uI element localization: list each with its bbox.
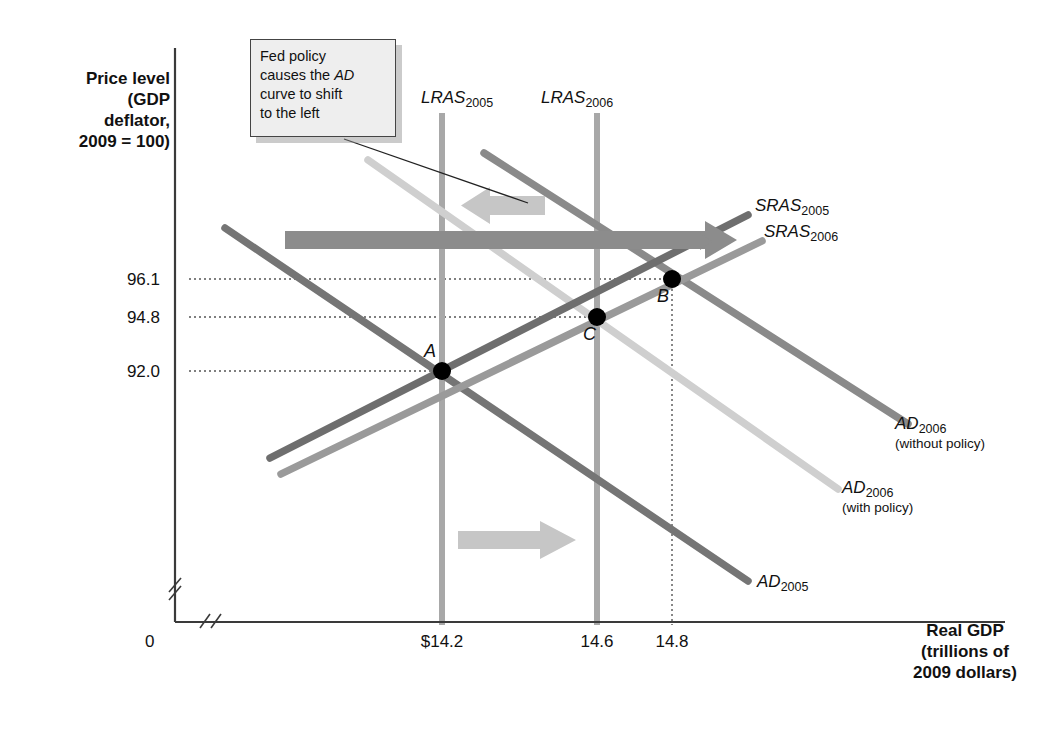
origin-label: 0 (145, 632, 154, 652)
label-ad-2006-without-policy: AD2006 (without policy) (895, 414, 985, 451)
label-sras-2006: SRAS2006 (764, 222, 838, 244)
label-sras-2006-sub: 2006 (810, 230, 838, 244)
x-tick-14-6: 14.6 (555, 632, 639, 652)
callout-box: Fed policy causes the AD curve to shift … (250, 39, 396, 137)
label-sras-2005-name: SRAS (755, 196, 801, 215)
label-sras-2005: SRAS2005 (755, 196, 829, 218)
callout-line-2: causes the AD (260, 66, 386, 85)
label-ad-2006-with-policy: AD2006 (with policy) (842, 478, 913, 515)
x-tick-14-8: 14.8 (630, 632, 714, 652)
label-ad-2005-sub: 2005 (781, 580, 809, 594)
y-tick-94-8: 94.8 (88, 308, 160, 328)
arrow-lras-shift-right (458, 521, 576, 559)
point-label-b: B (657, 286, 669, 307)
label-lras-2005-name: LRAS (421, 88, 465, 107)
callout-line-2-em: AD (334, 67, 354, 83)
curve-sras-2006 (281, 241, 762, 474)
label-lras-2005: LRAS2005 (421, 88, 493, 110)
point-label-c: C (583, 324, 596, 345)
point-a (433, 362, 451, 380)
label-ad-2006-with-note: (with policy) (842, 500, 913, 515)
y-tick-92-0: 92.0 (88, 362, 160, 382)
callout-pointer-line (344, 139, 528, 203)
label-ad-2005: AD2005 (757, 572, 808, 594)
y-tick-96-1: 96.1 (88, 270, 160, 290)
label-lras-2005-sub: 2005 (465, 96, 493, 110)
figure-canvas: Price level (GDP deflator, 2009 = 100) R… (0, 0, 1053, 729)
y-axis-title: Price level (GDP deflator, 2009 = 100) (40, 68, 170, 152)
callout-line-4: to the left (260, 104, 386, 123)
label-ad-2006-with-name: AD (842, 478, 866, 497)
label-lras-2006-sub: 2006 (585, 96, 613, 110)
label-lras-2006-name: LRAS (541, 88, 585, 107)
label-sras-2005-sub: 2005 (801, 204, 829, 218)
callout-line-2-text: causes the (260, 67, 334, 83)
label-ad-2006-without-sub: 2006 (919, 422, 947, 436)
x-axis-title: Real GDP (trillions of 2009 dollars) (880, 620, 1050, 683)
label-lras-2006: LRAS2006 (541, 88, 613, 110)
label-ad-2006-without-name: AD (895, 414, 919, 433)
arrow-ad-shift-left (461, 187, 545, 224)
label-ad-2006-without-note: (without policy) (895, 436, 985, 451)
label-ad-2005-name: AD (757, 572, 781, 591)
point-label-a: A (424, 341, 436, 362)
label-ad-2006-with-sub: 2006 (866, 486, 894, 500)
callout-line-3: curve to shift (260, 85, 386, 104)
x-tick-14-2: $14.2 (397, 632, 487, 652)
label-sras-2006-name: SRAS (764, 222, 810, 241)
callout-line-1: Fed policy (260, 47, 386, 66)
